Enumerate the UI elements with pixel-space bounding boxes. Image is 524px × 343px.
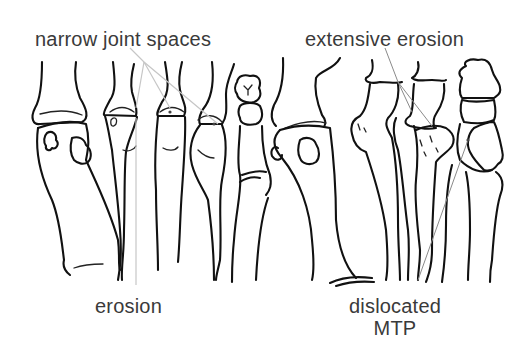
label-dislocated: dislocated: [340, 295, 450, 317]
label-narrow-joint-spaces: narrow joint spaces: [35, 28, 211, 50]
label-mtp: MTP: [340, 317, 450, 339]
left-foot-drawing: [33, 62, 271, 282]
right-foot-drawing: [271, 58, 502, 286]
label-erosion: erosion: [95, 295, 162, 317]
label-extensive-erosion: extensive erosion: [305, 28, 464, 50]
leader-lines: [130, 48, 470, 285]
foot-diagram: narrow joint spaces extensive erosion er…: [0, 0, 524, 343]
bone-illustration: [0, 0, 524, 343]
